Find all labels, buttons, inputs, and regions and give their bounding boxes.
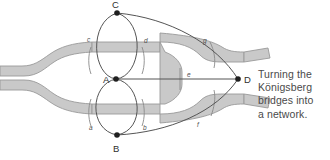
river-shapes	[0, 33, 270, 123]
node-label-D: D	[244, 74, 251, 85]
node-label-C: C	[112, 0, 119, 10]
edge-label-f: f	[197, 121, 200, 128]
river-left-trunk	[0, 42, 92, 76]
caption-line-3: bridges into	[258, 94, 328, 107]
koenigsberg-figure: C A B D c d a b g e f Turning the Königs…	[0, 0, 330, 160]
node-D[interactable]	[235, 76, 241, 82]
edge-label-g: g	[203, 37, 207, 45]
river-lower-channel	[92, 104, 160, 114]
node-label-A: A	[103, 74, 110, 85]
caption-line-4: a network.	[258, 108, 328, 121]
river-left-lower-branch	[0, 80, 92, 114]
edge-label-a: a	[89, 124, 93, 131]
edge-label-e: e	[187, 71, 191, 78]
river-upper-channel	[92, 42, 160, 52]
caption-line-1: Turning the	[258, 68, 328, 81]
node-A[interactable]	[113, 76, 119, 82]
river-right-stub-upper	[244, 48, 270, 62]
figure-caption: Turning the Königsberg bridges into a ne…	[258, 68, 328, 121]
edge-label-d: d	[144, 37, 148, 44]
edge-label-b: b	[143, 124, 147, 131]
node-label-B: B	[113, 143, 119, 154]
node-B[interactable]	[114, 132, 120, 138]
river-right-vertical-connector	[160, 42, 182, 104]
caption-line-2: Königsberg	[258, 81, 328, 94]
node-C[interactable]	[114, 10, 120, 16]
